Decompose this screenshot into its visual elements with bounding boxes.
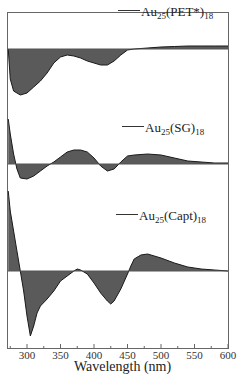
legend-line (122, 126, 144, 127)
series-label: Au25(PET*)18 (118, 4, 213, 21)
trace-fill-0 (8, 46, 228, 95)
x-axis-ticks (10, 344, 228, 348)
series-label: Au25(SG)18 (122, 120, 204, 137)
x-axis-label: Wavelength (nm) (0, 359, 245, 375)
legend-line (118, 10, 140, 11)
legend-line (116, 214, 138, 215)
cd-spectra-plot (0, 0, 245, 380)
traces-group (8, 46, 228, 336)
series-label: Au25(Capt)18 (116, 208, 206, 225)
